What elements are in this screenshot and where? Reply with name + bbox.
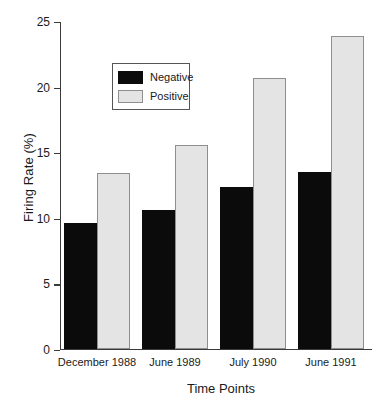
legend-swatch-negative-icon	[118, 71, 143, 84]
x-axis-tick-label: December 1988	[58, 356, 136, 368]
y-axis-tick-label: 15	[10, 147, 50, 159]
y-axis-title: Firing Rate (%)	[21, 98, 36, 258]
y-axis-tick	[54, 88, 60, 89]
bar-negative-0	[64, 223, 97, 349]
y-axis-tick-label: 10	[10, 213, 50, 225]
y-axis-tick-label: 0	[10, 344, 50, 356]
bar-positive-1	[175, 145, 208, 348]
y-axis-line	[60, 22, 61, 350]
x-axis-tick-label: July 1990	[229, 356, 276, 368]
bar-negative-3	[298, 172, 331, 349]
y-axis-tick	[54, 153, 60, 154]
bar-positive-0	[97, 173, 130, 349]
y-axis-tick	[54, 219, 60, 220]
y-axis-tick	[54, 22, 60, 23]
y-axis-tick-label: 20	[10, 82, 50, 94]
legend-item-negative: Negative	[118, 69, 193, 85]
plot-area: 0510152025 December 1988June 1989July 19…	[60, 22, 372, 350]
bar-chart-figure: Firing Rate (%) 0510152025 December 1988…	[0, 0, 382, 408]
y-axis-tick	[54, 284, 60, 285]
x-axis-tick-label: June 1989	[149, 356, 200, 368]
x-axis-title: Time Points	[60, 381, 382, 396]
bar-positive-3	[331, 36, 364, 348]
bar-negative-1	[142, 210, 175, 349]
legend-swatch-positive-icon	[118, 90, 143, 103]
y-axis-tick-label: 5	[10, 278, 50, 290]
y-axis-tick	[54, 350, 60, 351]
y-axis-tick-label: 25	[10, 16, 50, 28]
x-axis-line	[60, 349, 372, 350]
legend-label-positive: Positive	[150, 90, 189, 102]
legend-label-negative: Negative	[150, 71, 193, 83]
bar-positive-2	[253, 78, 286, 348]
legend: Negative Positive	[112, 63, 190, 110]
legend-item-positive: Positive	[118, 88, 189, 104]
x-axis-tick-label: June 1991	[305, 356, 356, 368]
bar-negative-2	[220, 187, 253, 348]
